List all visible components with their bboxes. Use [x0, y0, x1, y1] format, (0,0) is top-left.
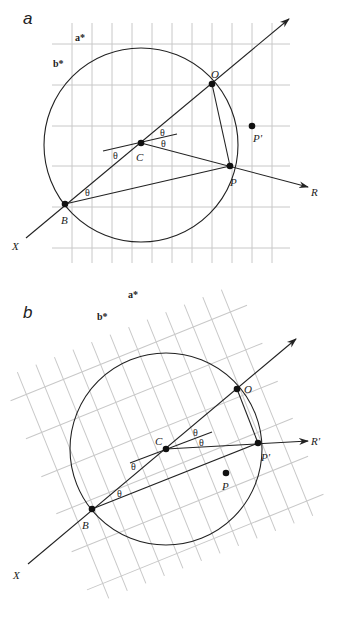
chord-o-p-prime-b — [237, 389, 258, 443]
a-star-axis-label: a* — [75, 32, 85, 43]
label-r-prime-b: R' — [310, 435, 321, 447]
panel-b: b a* b* — [2, 283, 330, 605]
label-b-b: B — [82, 519, 89, 531]
label-x-b: X — [12, 569, 21, 581]
b-star-axis-label: b* — [53, 58, 64, 69]
label-p-prime-a: P' — [252, 132, 263, 144]
point-p-b — [223, 470, 230, 477]
a-star-axis-label-b: a* — [128, 289, 138, 300]
theta-label-b-4: θ — [117, 488, 122, 499]
diffracted-beam-line-b — [166, 441, 308, 449]
theta-label-a-3: θ — [161, 138, 166, 149]
point-b-b — [89, 506, 96, 513]
theta-label-b-1: θ — [131, 461, 136, 472]
incident-beam-line-b — [28, 339, 296, 564]
point-o-b — [234, 386, 241, 393]
reciprocal-lattice-grid-b — [2, 283, 330, 605]
chord-b-p-prime-b — [92, 443, 258, 509]
label-p-prime-b: P' — [260, 451, 271, 463]
theta-label-a-1: θ — [113, 150, 118, 161]
point-c-a — [138, 140, 145, 147]
label-r-a: R — [310, 186, 318, 198]
label-o-b: O — [244, 383, 252, 395]
point-p-prime-a — [249, 123, 256, 130]
label-p-a: P — [229, 176, 237, 188]
label-c-a: C — [136, 151, 144, 163]
theta-label-b-3: θ — [199, 437, 204, 448]
label-x-a: X — [11, 240, 20, 252]
b-star-axis-label-b: b* — [97, 311, 108, 322]
theta-label-b-2: θ — [193, 427, 198, 438]
point-o-a — [209, 81, 216, 88]
point-b-a — [62, 201, 69, 208]
panel-a-label: a — [23, 9, 32, 28]
ewald-construction-diagram: a a* b* — [0, 0, 341, 621]
panel-b-label: b — [23, 303, 32, 322]
panel-a: a a* b* — [11, 9, 318, 263]
label-c-b: C — [155, 435, 163, 447]
point-c-b — [163, 446, 170, 453]
theta-label-a-2: θ — [160, 127, 165, 138]
label-o-a: O — [211, 68, 219, 80]
theta-label-a-4: θ — [85, 187, 90, 198]
label-p-b: P — [221, 480, 229, 492]
point-p-prime-b — [255, 440, 262, 447]
label-b-a: B — [61, 214, 68, 226]
point-p-a — [227, 163, 234, 170]
chord-o-p-a — [212, 84, 230, 166]
